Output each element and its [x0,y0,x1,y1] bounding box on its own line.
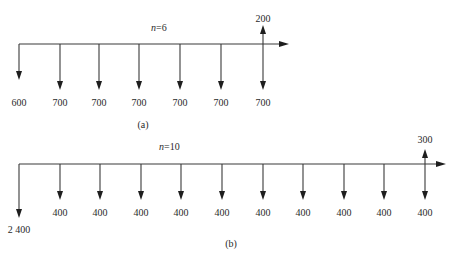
arrow-up-icon [422,149,428,158]
cash-flow-amount: 300 [418,134,433,145]
cash-flow-amount: 2 400 [8,224,31,235]
cash-flow-amount: 400 [215,207,230,218]
cash-flow-amount: 700 [53,97,68,108]
cash-flow-down-arrow: 600 [12,44,27,108]
arrow-down-icon [16,71,22,80]
cash-flow-up-arrow: 200 [256,13,271,44]
cash-flow-amount: 400 [337,207,352,218]
arrow-down-icon [218,81,224,90]
cash-flow-amount: 700 [214,97,229,108]
cash-flow-amount: 400 [377,207,392,218]
cash-flow-down-arrow: 400 [296,164,311,218]
arrow-down-icon [97,191,103,200]
cash-flow-amount: 700 [132,97,147,108]
cash-flow-amount: 700 [173,97,188,108]
cash-flow-amount: 400 [53,207,68,218]
cash-flow-down-arrow: 400 [215,164,230,218]
arrow-down-icon [96,81,102,90]
arrow-up-icon [260,25,266,34]
cash-flow-diagram-a: n=6600700700700700700700200(a) [12,13,290,131]
cash-flow-down-arrow: 400 [134,164,149,218]
diagram-caption: (a) [137,119,148,131]
axis-arrowhead-icon [436,161,446,167]
arrow-down-icon [16,209,22,218]
arrow-down-icon [138,191,144,200]
cash-flow-amount: 700 [92,97,107,108]
diagram-caption: (b) [225,238,237,250]
period-count-label: n=6 [151,22,167,33]
cash-flow-amount: 600 [12,97,27,108]
arrow-down-icon [178,191,184,200]
cash-flow-amount: 400 [418,207,433,218]
cash-flow-amount: 400 [134,207,149,218]
cash-flow-down-arrow: 400 [174,164,189,218]
arrow-down-icon [219,191,225,200]
cash-flow-down-arrow: 400 [256,164,271,218]
cash-flow-amount: 400 [296,207,311,218]
cash-flow-diagram-b: n=102 4004004004004004004004004004004003… [8,134,446,250]
cash-flow-down-arrow: 700 [53,44,68,108]
cash-flow-amount: 700 [256,97,271,108]
arrow-down-icon [57,81,63,90]
arrow-down-icon [260,191,266,200]
arrow-down-icon [422,191,428,200]
arrow-down-icon [136,81,142,90]
cash-flow-down-arrow: 2 400 [8,164,31,235]
period-count-label: n=10 [159,141,180,152]
axis-arrowhead-icon [279,41,289,47]
arrow-down-icon [260,81,266,90]
cash-flow-down-arrow: 700 [256,44,271,108]
cash-flow-down-arrow: 400 [418,164,433,218]
cash-flow-down-arrow: 400 [337,164,352,218]
cash-flow-down-arrow: 400 [93,164,108,218]
cash-flow-amount: 200 [256,13,271,24]
cash-flow-down-arrow: 700 [132,44,147,108]
cash-flow-down-arrow: 400 [377,164,392,218]
cash-flow-up-arrow: 300 [418,134,433,164]
arrow-down-icon [177,81,183,90]
cash-flow-down-arrow: 400 [53,164,68,218]
cash-flow-amount: 400 [93,207,108,218]
cash-flow-down-arrow: 700 [214,44,229,108]
cash-flow-diagrams: n=6600700700700700700700200(a)n=102 4004… [0,0,457,259]
arrow-down-icon [341,191,347,200]
cash-flow-amount: 400 [256,207,271,218]
cash-flow-down-arrow: 700 [92,44,107,108]
arrow-down-icon [381,191,387,200]
arrow-down-icon [57,191,63,200]
arrow-down-icon [300,191,306,200]
cash-flow-amount: 400 [174,207,189,218]
cash-flow-down-arrow: 700 [173,44,188,108]
